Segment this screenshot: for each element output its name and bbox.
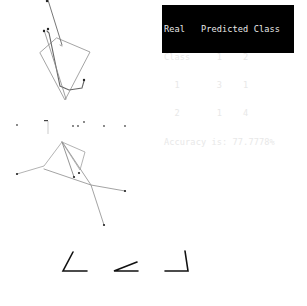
- angle-glyph-2: [114, 262, 138, 271]
- dot: [124, 125, 126, 127]
- leg-line-2: [63, 143, 104, 225]
- joint-dot: [47, 28, 49, 30]
- joint-dot: [46, 0, 48, 2]
- joint-dot: [78, 172, 80, 174]
- console-line-header: Real Predicted Class: [164, 25, 292, 34]
- dot: [83, 121, 85, 123]
- console-line-row-1: 1 3 1: [164, 81, 292, 90]
- body-line: [44, 169, 125, 191]
- dots-row: [16, 120, 126, 134]
- joint-dot: [43, 30, 45, 32]
- console-line-accuracy: Accuracy is: 77.7778%: [164, 138, 292, 147]
- stick-figure-top: [40, 0, 90, 100]
- joint-dot: [103, 224, 105, 226]
- angle-glyphs: [63, 251, 188, 271]
- console-output-panel: Real Predicted Class Class 1 2 1 3 1 2 1…: [162, 5, 294, 53]
- console-line-columns: Class 1 2: [164, 53, 292, 62]
- dot: [77, 125, 79, 127]
- limb-line: [47, 31, 84, 90]
- joint-dot: [16, 173, 18, 175]
- leg-line: [62, 142, 74, 177]
- left-arm: [17, 142, 62, 174]
- marker: [44, 120, 48, 121]
- angle-glyph-3: [165, 251, 188, 271]
- console-line-row-2: 2 1 4: [164, 109, 292, 118]
- stick-figure-middle: [16, 142, 126, 226]
- dot: [16, 124, 18, 126]
- torso-outline: [40, 38, 90, 100]
- dot: [72, 125, 74, 127]
- dot: [103, 125, 105, 127]
- joint-dot: [73, 176, 75, 178]
- joint-dot: [124, 190, 126, 192]
- joint-dot: [83, 79, 85, 81]
- angle-glyph-1: [63, 252, 87, 271]
